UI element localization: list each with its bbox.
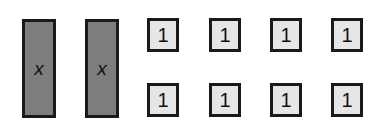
- unit-tile: 1: [331, 83, 363, 117]
- unit-tile-label: 1: [280, 25, 291, 45]
- unit-tile: 1: [209, 83, 241, 117]
- unit-tile: 1: [270, 18, 302, 52]
- unit-tile: 1: [331, 18, 363, 52]
- unit-tile-label: 1: [219, 90, 230, 110]
- unit-tile-label: 1: [219, 25, 230, 45]
- unit-tile: 1: [209, 18, 241, 52]
- x-tile: x: [22, 19, 56, 118]
- unit-tile-label: 1: [341, 90, 352, 110]
- unit-tile-label: 1: [280, 90, 291, 110]
- unit-tile: 1: [147, 18, 179, 52]
- unit-tile: 1: [147, 83, 179, 117]
- x-tile-label: x: [34, 58, 44, 80]
- x-tile: x: [85, 19, 119, 118]
- unit-tile: 1: [270, 83, 302, 117]
- unit-tile-label: 1: [341, 25, 352, 45]
- unit-tile-label: 1: [157, 90, 168, 110]
- x-tile-label: x: [97, 58, 107, 80]
- unit-tile-label: 1: [157, 25, 168, 45]
